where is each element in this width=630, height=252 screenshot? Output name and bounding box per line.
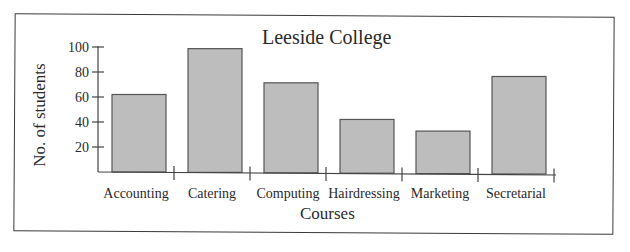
bar-secretarial bbox=[492, 77, 546, 175]
bars-group bbox=[112, 49, 546, 174]
bar-chart-plot: AccountingCateringComputingHairdressingM… bbox=[0, 0, 630, 252]
x-tick-label: Catering bbox=[188, 186, 236, 201]
bar-computing bbox=[264, 83, 318, 173]
x-tick-label: Computing bbox=[256, 186, 319, 201]
x-tick-label: Marketing bbox=[411, 186, 469, 201]
y-tick-label: 40 bbox=[75, 115, 89, 130]
bar-catering bbox=[188, 49, 242, 173]
bar-marketing bbox=[416, 131, 470, 174]
bar-accounting bbox=[112, 95, 166, 173]
y-tick-label: 20 bbox=[75, 140, 89, 155]
y-tick-label: 60 bbox=[75, 90, 89, 105]
y-tick-label: 80 bbox=[75, 65, 89, 80]
y-tick-label: 100 bbox=[68, 40, 89, 55]
x-tick-label: Hairdressing bbox=[328, 186, 400, 201]
x-axis bbox=[98, 172, 556, 175]
x-tick-label: Secretarial bbox=[486, 186, 546, 201]
bar-hairdressing bbox=[340, 119, 394, 173]
x-tick-label: Accounting bbox=[103, 186, 168, 201]
